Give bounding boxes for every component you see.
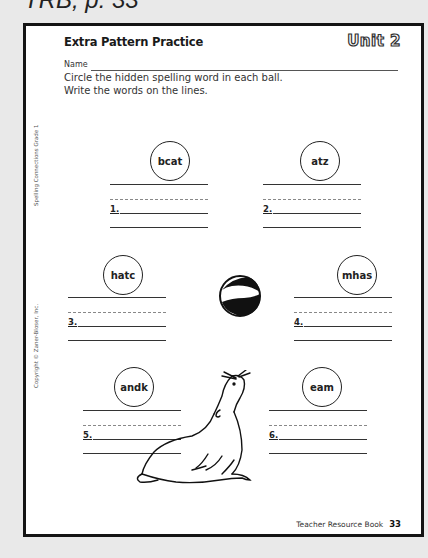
- ball-2: atz: [300, 141, 340, 181]
- side-text-series: Spelling Connections Grade 1: [33, 125, 39, 206]
- ball-2-text: atz: [311, 156, 328, 167]
- ball-4-text: mhas: [342, 270, 372, 281]
- ball-1-text: bcat: [158, 156, 183, 167]
- ball-4: mhas: [337, 255, 377, 295]
- page-number: 33: [389, 519, 401, 529]
- answer-lines-6[interactable]: 6.: [269, 410, 367, 470]
- worksheet-page: Extra Pattern Practice Unit 2 Name Circl…: [23, 23, 424, 537]
- instructions: Circle the hidden spelling word in each …: [64, 71, 294, 97]
- item-number-2: 2.: [263, 204, 272, 214]
- footer-book-title: Teacher Resource Book: [296, 520, 383, 529]
- item-number-1: 1.: [110, 204, 119, 214]
- ball-1: bcat: [150, 141, 190, 181]
- item-number-5: 5.: [83, 430, 92, 440]
- page-caption: TRB, p. 33: [24, 0, 139, 14]
- worksheet-title: Extra Pattern Practice: [64, 35, 203, 49]
- ball-3: hatc: [103, 255, 143, 295]
- seal-icon: [136, 370, 276, 490]
- item-number-3: 3.: [68, 317, 77, 327]
- answer-lines-1[interactable]: 1.: [110, 184, 208, 244]
- side-text-copyright: Copyright © Zaner-Bloser, Inc.: [33, 304, 39, 388]
- ball-3-text: hatc: [111, 270, 136, 281]
- page-footer: Teacher Resource Book33: [296, 519, 401, 529]
- name-label: Name: [64, 60, 88, 69]
- unit-label: Unit 2: [347, 32, 401, 50]
- answer-lines-4[interactable]: 4.: [294, 297, 392, 357]
- item-number-4: 4.: [294, 317, 303, 327]
- answer-lines-3[interactable]: 3.: [68, 297, 166, 357]
- ball-6: eam: [302, 367, 342, 407]
- answer-lines-2[interactable]: 2.: [263, 184, 361, 244]
- ball-6-text: eam: [310, 382, 334, 393]
- beach-ball-icon: [218, 274, 262, 318]
